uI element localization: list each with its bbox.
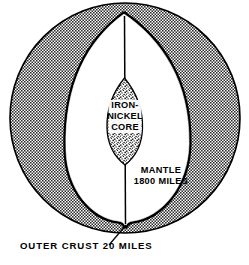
core-label-line-2: NICKEL [107, 111, 143, 121]
mantle-label-group: MANTLE 1800 MILES [134, 165, 189, 186]
mantle-label-line-2: 1800 MILES [134, 176, 189, 186]
earth-cutaway-svg: IRON- NICKEL CORE MANTLE 1800 MILES OUTE… [0, 0, 249, 265]
outer-crust-label: OUTER CRUST 20 MILES [20, 240, 153, 251]
earth-cutaway-figure: IRON- NICKEL CORE MANTLE 1800 MILES OUTE… [0, 0, 249, 265]
core-label-line-1: IRON- [111, 100, 138, 110]
mantle-label-line-1: MANTLE [141, 165, 181, 175]
core-label-line-3: CORE [111, 122, 139, 132]
